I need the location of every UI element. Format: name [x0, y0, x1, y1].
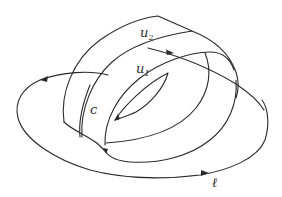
band-lower-left-edge [64, 122, 106, 152]
inner-ring-u1-upper [105, 52, 234, 145]
label-u2: u2 [140, 25, 153, 42]
inner-hole-lens [115, 73, 168, 120]
label-u1: u1 [136, 61, 149, 78]
arrow-right-bottom-icon [201, 170, 209, 176]
band-diagram: u2 u1 c ℓ [0, 0, 282, 197]
band-stripe-u2 [82, 31, 192, 137]
label-l: ℓ [212, 175, 218, 190]
label-c: c [90, 102, 98, 117]
curve-c [80, 85, 90, 137]
